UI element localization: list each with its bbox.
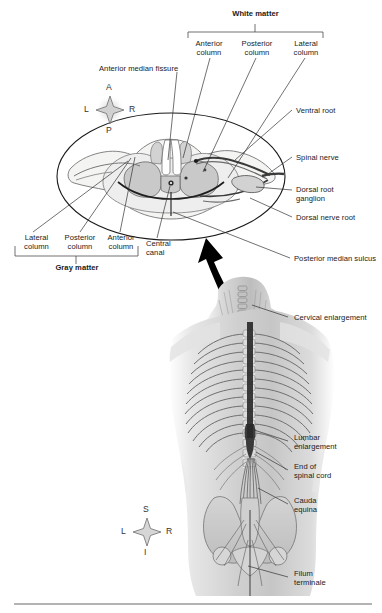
compass-bottom-right-letter: R: [166, 527, 172, 536]
cauda-equina-label-line1: Cauda: [294, 496, 317, 505]
leader-dorsal-nerve-root: [250, 198, 292, 217]
spinal-nerve-label: Spinal nerve: [296, 153, 339, 162]
gray-matter-posterior-column-line2: column: [56, 242, 104, 251]
end-of-spinal-cord-label-line2: spinal cord: [294, 471, 331, 480]
figure-canvas: White matter Anterior column Posterior c…: [0, 0, 382, 613]
compass-rose-top: [95, 95, 125, 125]
compass-top-right-letter: R: [129, 105, 135, 114]
compass-top-left-letter: L: [84, 105, 89, 114]
gray-matter-posterior-column-line1: Posterior: [56, 233, 104, 242]
compass-top-posterior-letter: P: [106, 126, 112, 135]
white-matter-lateral-column-line2: column: [280, 48, 332, 57]
white-matter-lateral-column-line1: Lateral: [280, 39, 332, 48]
spinal-cord-strip: [247, 322, 253, 438]
white-matter-bracket: [188, 32, 323, 38]
lumbar-enlargement-label-line2: enlargement: [294, 442, 337, 451]
dorsal-root-ganglion-label-line2: ganglion: [296, 194, 325, 203]
central-canal-label-line2: canal: [146, 248, 164, 257]
gray-matter-lateral-column-line2: column: [14, 242, 59, 251]
white-matter-anterior-column-line1: Anterior: [183, 39, 235, 48]
lumbar-enlargement-label-line1: Lumbar: [294, 433, 320, 442]
dorsal-root-ganglion-label-line1: Dorsal root: [296, 185, 334, 194]
gray-matter-anterior-column-line2: column: [99, 242, 143, 251]
gray-matter-lateral-column-line1: Lateral: [14, 233, 59, 242]
end-of-spinal-cord-label-line1: End of: [294, 462, 316, 471]
ventral-root-label: Ventral root: [296, 106, 335, 115]
anterior-median-fissure-label: Anterior median fissure: [99, 64, 178, 73]
leader-anterior-column: [183, 58, 210, 158]
posterior-horn-right: [180, 142, 192, 164]
white-matter-posterior-column-line2: column: [231, 48, 283, 57]
compass-top-anterior-letter: A: [106, 83, 112, 92]
white-matter-anterior-column-line2: column: [183, 48, 235, 57]
ventral-rootlet-origin: [194, 159, 198, 163]
dorsal-nerve-root-label: Dorsal nerve root: [296, 213, 355, 222]
spinal-cord-illustration: [0, 0, 382, 613]
cauda-equina-label-line2: equina: [294, 505, 317, 514]
white-matter-posterior-column-line1: Posterior: [231, 39, 283, 48]
compass-rose-bottom: [133, 518, 161, 546]
leader-ventral-root: [235, 110, 292, 160]
filum-terminale-label-line2: terminale: [294, 578, 326, 587]
lumbar-enlargement-bulge: [245, 424, 256, 441]
gray-matter-anterior-column-line1: Anterior: [99, 233, 143, 242]
gray-matter-title: Gray matter: [43, 263, 111, 272]
central-canal-lumen: [170, 182, 172, 184]
rootlet-dot-a: [184, 176, 187, 179]
compass-bottom-left-letter: L: [121, 527, 126, 536]
posterior-median-sulcus-label: Posterior median sulcus: [294, 254, 376, 263]
white-matter-title: White matter: [208, 9, 303, 18]
central-canal-label-line1: Central: [146, 239, 171, 248]
leader-spinal-nerve: [268, 157, 292, 174]
cervical-enlargement-label: Cervical enlargement: [294, 313, 367, 322]
compass-bottom-inferior-letter: I: [144, 548, 146, 557]
leader-lateral-column: [228, 58, 305, 178]
leader-posterior-median-sulcus: [173, 212, 290, 258]
compass-bottom-superior-letter: S: [143, 505, 149, 514]
filum-terminale-label-line1: Filum: [294, 569, 313, 578]
